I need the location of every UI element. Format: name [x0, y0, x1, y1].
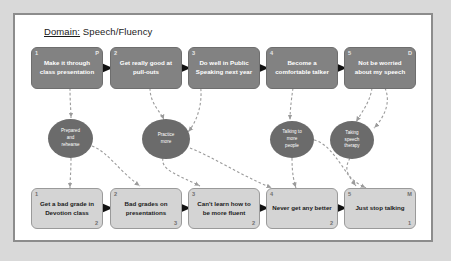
goal-label-2: Get really good at pull-outs: [120, 59, 172, 77]
goal-node-2[interactable]: 2 Get really good at pull-outs: [110, 47, 182, 89]
strategy-node-2[interactable]: Practice more: [142, 119, 190, 159]
strategy-label-4: Taking speech therapy: [344, 130, 359, 151]
fear-index-1: 1: [35, 191, 38, 197]
goal-label-3: Do well in Public Speaking next year: [196, 59, 252, 77]
fear-label-5: Just stop talking: [355, 204, 404, 213]
fear-index-2: 2: [114, 191, 117, 197]
diagram-canvas: Domain: Speech/Fluency 1 P Make it throu…: [0, 0, 451, 261]
fear-node-1[interactable]: 1 Get a bad grade in Devotion class 2: [31, 188, 103, 229]
strategy-node-1[interactable]: Prepared and rehearse: [48, 119, 93, 158]
fear-count-2: 3: [174, 220, 177, 226]
fear-count-3: 2: [252, 220, 255, 226]
fear-index-4: 4: [270, 191, 273, 197]
fear-count-1: 2: [95, 220, 98, 226]
strategy-node-4[interactable]: Taking speech therapy: [330, 121, 374, 159]
strategy-node-3[interactable]: Talking to more people: [270, 121, 314, 158]
fear-node-5[interactable]: 5 M Just stop talking 1: [344, 188, 416, 229]
strategy-label-3: Talking to more people: [282, 129, 301, 150]
page-title: Domain: Speech/Fluency: [44, 26, 152, 37]
strategy-label-2: Practice more: [158, 132, 175, 146]
fear-count-4: 2: [330, 220, 333, 226]
fear-node-3[interactable]: 3 Can't learn how to be more fluent 2: [188, 188, 260, 229]
goal-index-4: 4: [270, 50, 273, 56]
domain-value: Speech/Fluency: [80, 26, 152, 37]
goal-index-1: 1: [35, 50, 38, 56]
goal-node-5[interactable]: 5 D Not be worried about my speech: [344, 47, 416, 89]
fear-label-2: Bad grades on presentations: [125, 200, 168, 218]
goal-label-1: Make it through class presentation: [40, 59, 94, 77]
fear-label-1: Get a bad grade in Devotion class: [40, 200, 94, 218]
goal-index-2: 2: [114, 50, 117, 56]
goal-corner-tag-1: P: [95, 50, 99, 56]
goal-label-5: Not be worried about my speech: [355, 59, 406, 77]
fear-index-3: 3: [192, 191, 195, 197]
fear-corner-tag-5: M: [407, 191, 412, 197]
strategy-label-1: Prepared and rehearse: [61, 128, 80, 149]
domain-label: Domain:: [44, 26, 80, 37]
goal-corner-tag-5: D: [408, 50, 412, 56]
fear-label-3: Can't learn how to be more fluent: [197, 200, 250, 218]
goal-node-4[interactable]: 4 Become a comfortable talker: [266, 47, 338, 89]
goal-node-3[interactable]: 3 Do well in Public Speaking next year: [188, 47, 260, 89]
goal-label-4: Become a comfortable talker: [275, 59, 329, 77]
fear-node-2[interactable]: 2 Bad grades on presentations 3: [110, 188, 182, 229]
fear-count-5: 1: [408, 220, 411, 226]
fear-label-4: Never get any better: [272, 204, 332, 213]
goal-index-5: 5: [348, 50, 351, 56]
fear-index-5: 5: [348, 191, 351, 197]
goal-index-3: 3: [192, 50, 195, 56]
goal-node-1[interactable]: 1 P Make it through class presentation: [31, 47, 103, 89]
fear-node-4[interactable]: 4 Never get any better 2: [266, 188, 338, 229]
